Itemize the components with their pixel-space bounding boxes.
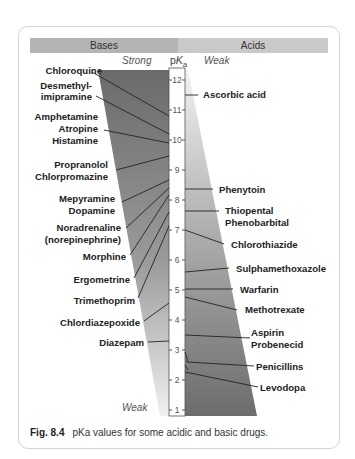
acid-sulphamethoxazole: Sulphamethoxazole	[236, 263, 326, 274]
svg-text:9: 9	[175, 165, 180, 175]
base-histamine: Histamine	[52, 135, 98, 146]
base-mepyramine: Mepyramine	[59, 193, 115, 204]
acid-warfarin: Warfarin	[240, 284, 279, 295]
base-propranolol: Propranolol	[54, 159, 108, 170]
svg-text:8: 8	[175, 195, 180, 205]
base-diazepam: Diazepam	[99, 337, 144, 348]
base-atropine: Atropine	[59, 123, 98, 134]
base-chlorpromazine: Chlorpromazine	[35, 171, 108, 182]
figure-caption: Fig. 8.4pKa values for some acidic and b…	[30, 427, 268, 438]
acid-penicillins: Penicillins	[256, 361, 303, 372]
base-amphetamine: Amphetamine	[35, 111, 98, 122]
acid-aspirin: Aspirin	[251, 327, 284, 338]
acid-chlorothiazide: Chlorothiazide	[231, 239, 298, 250]
base-chloroquine: Chloroquine	[46, 65, 103, 76]
acid-methotrexate: Methotrexate	[245, 304, 305, 315]
pka-scale	[169, 68, 185, 416]
svg-text:12: 12	[172, 75, 182, 85]
acid-phenobarbital: Phenobarbital	[225, 217, 289, 228]
base-trimethoprim: Trimethoprim	[74, 295, 135, 306]
acid-probenecid: Probenecid	[251, 339, 303, 350]
base-morphine: Morphine	[83, 251, 126, 262]
svg-text:10: 10	[172, 135, 182, 145]
acid-thiopental: Thiopental	[225, 205, 274, 216]
base-noradrenaline-2: (norepinephrine)	[45, 234, 121, 245]
svg-text:6: 6	[175, 255, 180, 265]
svg-text:4: 4	[175, 315, 180, 325]
base-desmethylimipramine-1: Desmethyl-	[40, 80, 92, 91]
figure-number: Fig. 8.4	[30, 427, 64, 438]
svg-text:1: 1	[175, 405, 180, 415]
base-ergometrine: Ergometrine	[73, 274, 130, 285]
base-desmethylimipramine-2: imipramine	[41, 91, 92, 102]
svg-text:5: 5	[175, 285, 180, 295]
base-dopamine: Dopamine	[69, 205, 115, 216]
svg-text:2: 2	[175, 375, 180, 385]
acid-ascorbic-acid: Ascorbic acid	[203, 89, 266, 100]
acid-phenytoin: Phenytoin	[219, 184, 265, 195]
svg-text:3: 3	[175, 345, 180, 355]
base-chlordiazepoxide: Chlordiazepoxide	[60, 317, 140, 328]
caption-text: pKa values for some acidic and basic dru…	[72, 427, 268, 438]
svg-text:7: 7	[175, 225, 180, 235]
base-noradrenaline-1: Noradrenaline	[56, 222, 121, 233]
acid-levodopa: Levodopa	[260, 382, 305, 393]
svg-text:11: 11	[173, 105, 182, 115]
